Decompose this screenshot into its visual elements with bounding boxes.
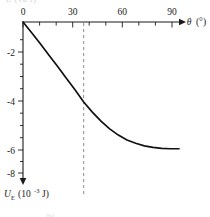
y-axis-title: U E (10 -3 J)	[4, 187, 49, 201]
x-tick-label-90: 90	[167, 7, 177, 17]
x-axis-arrow	[179, 19, 186, 26]
potential-energy-chart: U (10 J) 0 30 60 90 θ	[0, 0, 210, 217]
y-axis-unit-exponent: -3	[34, 187, 39, 194]
x-tick-label-0: 0	[21, 7, 26, 17]
clipped-header-text: U (10 J)	[6, 0, 37, 4]
x-axis	[23, 19, 186, 26]
y-axis	[20, 22, 27, 185]
clipped-caption-text: (b)	[46, 212, 54, 217]
y-major-ticks	[18, 52, 23, 173]
y-axis-unit-open: (10	[18, 189, 31, 200]
y-tick-label-minus6: -6	[7, 146, 15, 156]
y-tick-label-minus2: -2	[7, 48, 15, 58]
energy-curve	[23, 22, 179, 149]
x-major-ticks	[23, 22, 172, 28]
x-tick-label-30: 30	[68, 7, 78, 17]
y-tick-label-minus8: -8	[7, 169, 15, 179]
x-axis-title: θ (°)	[187, 17, 206, 28]
y-tick-label-minus4: -4	[7, 97, 15, 107]
x-axis-unit: (°)	[196, 17, 206, 28]
y-axis-arrow	[20, 178, 27, 185]
y-axis-subscript: E	[11, 194, 15, 201]
chart-svg: 0 30 60 90 θ (°)	[0, 0, 210, 217]
x-axis-symbol: θ	[187, 17, 192, 27]
y-axis-unit-close: J)	[42, 189, 49, 200]
x-tick-label-60: 60	[118, 7, 128, 17]
